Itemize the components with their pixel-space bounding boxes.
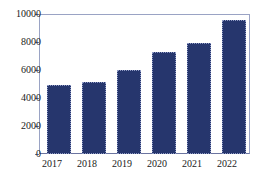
y-tick-label-8000: 8000 (21, 37, 41, 47)
y-tick-label-6000: 6000 (21, 65, 41, 75)
bar-2020[interactable] (152, 52, 176, 154)
y-tick-label-10000: 10000 (16, 9, 41, 19)
y-tick-label-4000: 4000 (21, 93, 41, 103)
bar-2021[interactable] (187, 43, 211, 154)
x-tick-label-2022: 2022 (207, 158, 247, 170)
bar-2018[interactable] (82, 82, 106, 154)
x-tick-label-2021: 2021 (172, 158, 212, 170)
bar-2022[interactable] (222, 20, 246, 154)
x-tick-label-2019: 2019 (102, 158, 142, 170)
bar-chart: 10000 8000 6000 4000 2000 0 2017 2018 20… (0, 0, 258, 181)
x-tick-label-2018: 2018 (67, 158, 107, 170)
x-tick-label-2020: 2020 (137, 158, 177, 170)
bar-2019[interactable] (117, 70, 141, 154)
bar-2017[interactable] (47, 85, 71, 154)
x-tick-label-2017: 2017 (32, 158, 72, 170)
y-tick-label-2000: 2000 (21, 121, 41, 131)
bars-layer (40, 14, 250, 154)
